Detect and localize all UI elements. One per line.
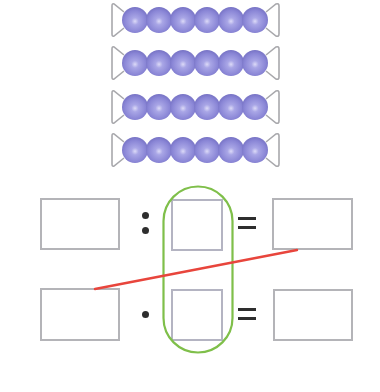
bead-row-1: [112, 4, 279, 37]
division-colon-bottom-dot: [142, 227, 149, 234]
division-colon-top-dot: [142, 212, 149, 219]
dividend-box[interactable]: [40, 198, 120, 250]
quotient-box[interactable]: [272, 198, 353, 250]
factor-2-box[interactable]: [171, 289, 223, 341]
red-connector-line: [95, 250, 297, 289]
factor-1-box[interactable]: [40, 288, 120, 341]
multiplication-dot: [142, 311, 149, 318]
bead-row-3: [112, 91, 279, 124]
math-worksheet-diagram: [0, 0, 380, 392]
bead-row-4: [112, 134, 279, 167]
divisor-box[interactable]: [171, 199, 223, 251]
product-box[interactable]: [273, 289, 353, 341]
bead-rows: [0, 0, 380, 180]
bead-row-2: [112, 47, 279, 80]
